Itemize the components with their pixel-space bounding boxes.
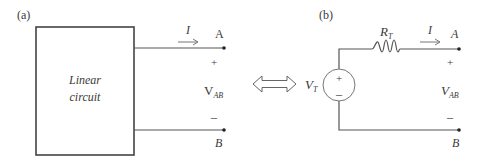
thevenin-equivalence-diagram: (a) Linear circuit I A + VAB – B (b) RT [0,0,483,157]
terminal-a-label-b: A [450,27,459,41]
resistor-label: RT [379,24,393,41]
panel-a: (a) Linear circuit I A + VAB – B [17,8,226,155]
source-minus: – [335,87,343,101]
current-arrow-icon [178,39,198,45]
panel-b-label: (b) [319,8,333,22]
terminal-b-dot [222,128,226,132]
terminal-b-label-b: B [452,136,460,150]
terminal-a-dot-b [457,47,461,51]
minus-sign-a: – [210,110,218,124]
source-plus: + [336,72,342,84]
source-label: VT [305,77,318,94]
plus-sign-a: + [211,56,217,68]
current-label-a: I [185,23,191,37]
terminal-a-dot [222,46,226,50]
box-text-line1: Linear [68,73,101,87]
voltage-label-a: VAB [204,83,223,100]
wire-b-bottom [339,101,459,130]
resistor-icon [372,40,400,52]
wire-b-top-left [339,49,372,69]
panel-a-label: (a) [17,8,30,22]
terminal-b-label: B [215,136,223,150]
terminal-a-label: A [215,27,224,41]
current-label-b: I [427,23,433,37]
voltage-label-b: VAB [441,83,459,100]
minus-sign-b: – [446,110,454,124]
terminal-b-dot-b [457,128,461,132]
box-text-line2: circuit [70,90,102,104]
double-arrow-icon [253,76,296,92]
panel-b: (b) RT + – VT I A + VAB – B [305,8,461,150]
plus-sign-b: + [447,56,453,68]
current-arrow-icon [420,39,440,45]
